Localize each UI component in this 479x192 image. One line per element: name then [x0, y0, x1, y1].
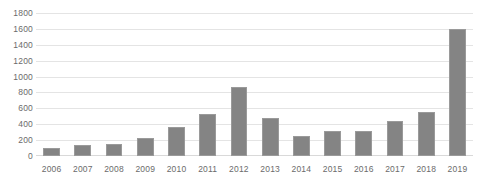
y-axis: 1800 1600 1400 1200 1000 800 600 400 200… [0, 0, 33, 192]
bar-2010[interactable] [168, 127, 185, 156]
bar-2015[interactable] [324, 131, 341, 156]
bar-slot [36, 13, 67, 156]
y-axis-tick-label: 0 [0, 152, 33, 161]
x-axis-tick-label: 2019 [442, 158, 473, 180]
bar-slot [130, 13, 161, 156]
bar-slot [255, 13, 286, 156]
bar-chart: 1800 1600 1400 1200 1000 800 600 400 200… [0, 0, 479, 192]
x-axis-tick-label: 2010 [161, 158, 192, 180]
x-axis-tick-label: 2017 [379, 158, 410, 180]
bar-2011[interactable] [199, 114, 216, 156]
bar-2008[interactable] [106, 144, 123, 156]
bar-2012[interactable] [231, 87, 248, 156]
x-axis-tick-label: 2006 [36, 158, 67, 180]
bar-2007[interactable] [74, 145, 91, 156]
plot-area [36, 13, 473, 156]
bar-slot [411, 13, 442, 156]
x-axis-tick-label: 2018 [411, 158, 442, 180]
x-axis-tick-label: 2014 [286, 158, 317, 180]
bar-slot [161, 13, 192, 156]
x-axis-tick-label: 2008 [98, 158, 129, 180]
x-axis-tick-label: 2011 [192, 158, 223, 180]
y-axis-tick-label: 800 [0, 88, 33, 97]
bar-slot [317, 13, 348, 156]
x-axis-tick-label: 2007 [67, 158, 98, 180]
bar-slot [98, 13, 129, 156]
x-axis-tick-label: 2015 [317, 158, 348, 180]
bar-2019[interactable] [449, 29, 466, 156]
y-axis-tick-label: 1200 [0, 56, 33, 65]
x-axis-tick-label: 2013 [255, 158, 286, 180]
bar-2013[interactable] [262, 118, 279, 156]
bar-slot [192, 13, 223, 156]
bar-2006[interactable] [43, 148, 60, 156]
bar-slot [286, 13, 317, 156]
y-axis-tick-label: 1800 [0, 9, 33, 18]
bar-2009[interactable] [137, 138, 154, 156]
bar-2018[interactable] [418, 112, 435, 156]
x-axis-tick-label: 2009 [130, 158, 161, 180]
bar-2017[interactable] [387, 121, 404, 156]
y-axis-tick-label: 1400 [0, 41, 33, 50]
bar-slot [379, 13, 410, 156]
bar-slot [223, 13, 254, 156]
x-axis: 2006 2007 2008 2009 2010 2011 2012 2013 … [36, 158, 473, 180]
y-axis-tick-label: 1000 [0, 72, 33, 81]
bar-slot [67, 13, 98, 156]
bar-slot [442, 13, 473, 156]
y-axis-tick-label: 600 [0, 104, 33, 113]
bar-2016[interactable] [355, 131, 372, 156]
bar-slot [348, 13, 379, 156]
x-axis-tick-label: 2012 [223, 158, 254, 180]
y-axis-tick-label: 1600 [0, 25, 33, 34]
x-axis-tick-label: 2016 [348, 158, 379, 180]
y-axis-tick-label: 200 [0, 136, 33, 145]
bar-2014[interactable] [293, 136, 310, 156]
y-axis-tick-label: 400 [0, 120, 33, 129]
bar-series [36, 13, 473, 156]
